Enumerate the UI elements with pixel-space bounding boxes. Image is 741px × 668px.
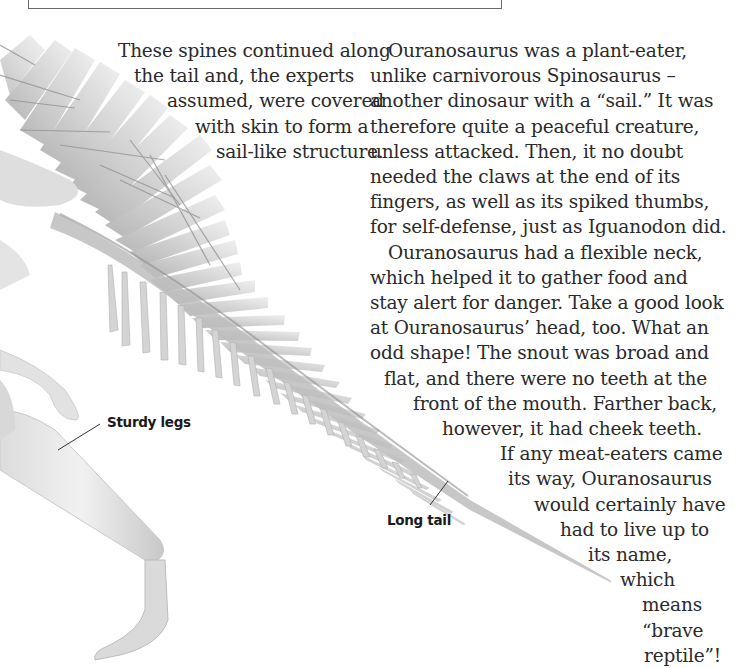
body-line: Ouranosaurus had a flexible neck, bbox=[370, 240, 730, 265]
caption-line: assumed, were covered bbox=[100, 88, 340, 113]
metatarsal-bone bbox=[95, 560, 168, 660]
body-line: stay alert for danger. Take a good look bbox=[370, 290, 730, 315]
label-long-tail: Long tail bbox=[387, 512, 451, 528]
body-line: flat, and there were no teeth at the bbox=[370, 366, 730, 391]
body-line: “brave bbox=[370, 618, 730, 643]
body-line: needed the claws at the end of its bbox=[370, 164, 730, 189]
body-line: fingers, as well as its spiked thumbs, bbox=[370, 189, 730, 214]
sturdy-legs-pointer bbox=[58, 424, 100, 450]
caption-line: sail-like structure. bbox=[100, 139, 340, 164]
caption-line: with skin to form a bbox=[100, 114, 340, 139]
caption-sail-text: These spines continued along the tail an… bbox=[100, 38, 340, 164]
body-line: If any meat-eaters came bbox=[370, 441, 730, 466]
body-line: however, it had cheek teeth. bbox=[370, 416, 730, 441]
caption-line: the tail and, the experts bbox=[100, 63, 340, 88]
caption-line: These spines continued along bbox=[100, 38, 340, 63]
main-body-text: Ouranosaurus was a plant-eater, unlike c… bbox=[370, 38, 730, 668]
body-line: reptile”! bbox=[370, 643, 730, 668]
body-line: for self-defense, just as Iguanodon did. bbox=[370, 214, 730, 239]
body-line: which bbox=[370, 567, 730, 592]
body-line: its way, Ouranosaurus bbox=[370, 466, 730, 491]
body-line: front of the mouth. Farther back, bbox=[370, 391, 730, 416]
body-line: at Ouranosaurus’ head, too. What an bbox=[370, 315, 730, 340]
body-line: means bbox=[370, 592, 730, 617]
pubis-bone bbox=[0, 240, 30, 290]
body-line: another dinosaur with a “sail.” It was bbox=[370, 88, 730, 113]
body-line: its name, bbox=[370, 542, 730, 567]
body-line: unlike carnivorous Spinosaurus – bbox=[370, 63, 730, 88]
body-line: odd shape! The snout was broad and bbox=[370, 340, 730, 365]
femur-bone bbox=[0, 410, 164, 560]
label-sturdy-legs: Sturdy legs bbox=[107, 414, 191, 430]
body-line: unless attacked. Then, it no doubt bbox=[370, 139, 730, 164]
body-line: which helped it to gather food and bbox=[370, 265, 730, 290]
body-line: Ouranosaurus was a plant-eater, bbox=[370, 38, 730, 63]
body-line: therefore quite a peaceful creature, bbox=[370, 114, 730, 139]
